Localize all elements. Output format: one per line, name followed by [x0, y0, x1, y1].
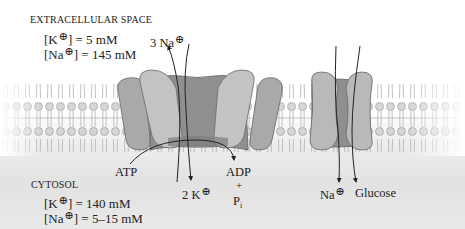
cytosol-na-concentration: [Na⊕] = 5–15 mM: [44, 210, 143, 225]
pi-subscript: i: [240, 201, 242, 210]
k-value: ] = 140 mM: [68, 196, 131, 211]
na-out-text: 3 Na: [150, 36, 174, 50]
extracellular-na-concentration: [Na⊕] = 145 mM: [44, 46, 136, 61]
na-label: [Na: [44, 211, 64, 226]
symporter-na-label: Na⊕: [320, 186, 345, 202]
atp-label: ATP: [115, 166, 137, 179]
cation-symbol: ⊕: [336, 185, 345, 197]
adp-plus-sign: +: [236, 180, 242, 191]
k-value: ] = 5 mM: [68, 32, 118, 47]
k-label: [K: [44, 196, 58, 211]
adp-label: ADP: [226, 166, 251, 179]
phosphate-label: Pi: [233, 195, 242, 210]
cytosol-title: CYTOSOL: [31, 180, 78, 190]
cation-symbol: ⊕: [59, 194, 68, 206]
sodium-potassium-pump: [118, 70, 283, 150]
k-label: [K: [44, 32, 58, 47]
glucose-label: Glucose: [355, 187, 396, 200]
cation-symbol: ⊕: [201, 185, 210, 197]
pump-na-out-label: 3 Na⊕: [150, 34, 184, 50]
cytosol-k-concentration: [K⊕] = 140 mM: [44, 195, 131, 210]
cation-symbol: ⊕: [175, 33, 184, 45]
membrane-transport-diagram: EXTRACELLULAR SPACE [K⊕] = 5 mM [Na⊕] = …: [0, 0, 465, 229]
na-value: ] = 5–15 mM: [74, 211, 143, 226]
na-value: ] = 145 mM: [74, 47, 137, 62]
cation-symbol: ⊕: [65, 209, 74, 221]
extracellular-k-concentration: [K⊕] = 5 mM: [44, 31, 118, 46]
pump-k-in-label: 2 K⊕: [182, 186, 211, 202]
na-in-text: Na: [320, 188, 335, 202]
cation-symbol: ⊕: [65, 45, 74, 57]
pi-text: P: [233, 194, 240, 208]
na-label: [Na: [44, 47, 64, 62]
k-in-text: 2 K: [182, 188, 200, 202]
cation-symbol: ⊕: [59, 30, 68, 42]
extracellular-title: EXTRACELLULAR SPACE: [30, 15, 152, 25]
sodium-glucose-symporter: [310, 72, 372, 150]
